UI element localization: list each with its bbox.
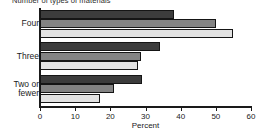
bar-chart: Number of types of materials 01020304050… [0,0,259,134]
x-tick [110,108,111,111]
bar [40,10,174,19]
category-label: Three [0,52,39,62]
bar [40,61,138,70]
x-tick-label: 40 [176,112,185,121]
x-tick [216,108,217,111]
category-label: Two or fewer [0,80,39,99]
x-tick-label: 20 [106,112,115,121]
bar [40,19,216,28]
x-tick [251,108,252,111]
x-tick-label: 10 [71,112,80,121]
x-tick-label: 60 [247,112,256,121]
x-tick [146,108,147,111]
bar [40,42,160,51]
x-tick-label: 50 [211,112,220,121]
bar [40,29,233,38]
x-tick-label: 30 [141,112,150,121]
bar [40,94,100,103]
bar [40,75,142,84]
bar [40,52,141,61]
x-tick-label: 0 [38,112,42,121]
chart-title: Number of types of materials [12,0,111,5]
category-label: Four [0,19,39,29]
x-tick [75,108,76,111]
x-tick [40,108,41,111]
plot-area: 0102030405060 [40,8,251,106]
x-axis-label: Percent [40,121,251,130]
x-tick [181,108,182,111]
bar [40,84,114,93]
